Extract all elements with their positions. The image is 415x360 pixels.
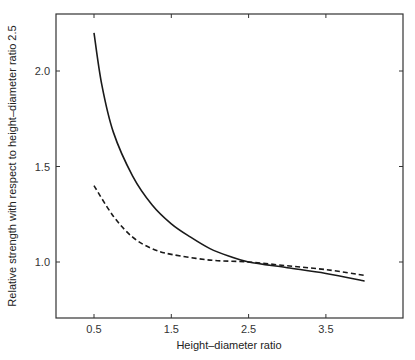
x-axis-title: Height–diameter ratio bbox=[176, 339, 281, 351]
x-tick-label: 2.5 bbox=[241, 323, 256, 335]
line-chart: 0.51.52.53.5 1.01.52.0 Height–diameter r… bbox=[0, 0, 415, 360]
data-series bbox=[94, 33, 365, 281]
y-axis-ticks: 1.01.52.0 bbox=[35, 65, 403, 268]
series-solid-line bbox=[94, 33, 365, 281]
series-dashed-line bbox=[94, 186, 365, 276]
x-axis-ticks: 0.51.52.53.5 bbox=[86, 14, 333, 335]
x-tick-label: 3.5 bbox=[318, 323, 333, 335]
y-tick-label: 2.0 bbox=[35, 65, 50, 77]
plot-frame bbox=[56, 14, 403, 318]
x-tick-label: 1.5 bbox=[164, 323, 179, 335]
x-tick-label: 0.5 bbox=[86, 323, 101, 335]
y-axis-title: Relative strength with respect to height… bbox=[6, 25, 18, 306]
y-tick-label: 1.5 bbox=[35, 161, 50, 173]
y-tick-label: 1.0 bbox=[35, 256, 50, 268]
